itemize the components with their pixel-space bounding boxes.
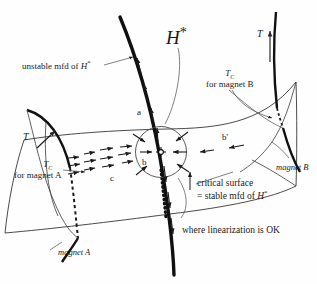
trajectory-label-b: b — [142, 158, 147, 167]
critical-surface-label: critical surface — [197, 179, 253, 189]
magnet-a-label: magnet A — [58, 248, 90, 257]
magnet-b-label: magnet B — [276, 163, 308, 172]
tc-magnet-a-sublabel: for magnet A — [14, 171, 62, 180]
unstable-manifold-label: unstable mfd of H* — [22, 59, 91, 71]
stable-flow-arrows — [68, 145, 244, 174]
tc-magnet-b-label: TC for magnet B — [206, 69, 254, 90]
magnet-a-dashed-branch — [70, 168, 78, 238]
temperature-label-left: T — [23, 132, 29, 143]
tc-magnet-a-label: TC for magnet A — [14, 160, 62, 181]
diagram-canvas: unstable mfd of H* H* TC for magnet B TC… — [0, 0, 317, 284]
critical-surface-sheet — [5, 82, 297, 233]
temperature-axis-left-arrow — [37, 131, 55, 148]
trajectory-label-a: a — [137, 108, 141, 117]
linearization-note-label: where linearization is OK — [182, 226, 280, 236]
magnet-b-dashed-branch — [277, 108, 283, 128]
page-title: H* — [166, 25, 187, 48]
trajectory-label-c: c — [110, 174, 114, 183]
temperature-label-right: T — [257, 29, 263, 40]
diagram-vector-layer — [0, 0, 317, 284]
stable-manifold-label: = stable mfd of H* — [197, 190, 268, 202]
tc-magnet-b-sublabel: for magnet B — [206, 80, 254, 89]
trajectory-label-b-prime: b' — [222, 133, 228, 142]
